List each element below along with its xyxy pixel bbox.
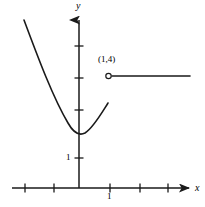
parabola-curve [24,20,108,134]
open-point-annotation-label: (1,4) [98,55,115,64]
x-axis-label: x [195,183,199,193]
open-circle-marker [106,73,111,78]
x-axis-tick-label-one: 1 [107,192,112,201]
y-axis-label: y [76,1,80,11]
graph-figure: y x 1 1 (1,4) [0,0,205,207]
y-axis-tick-label-one: 1 [66,153,71,162]
plot-canvas [0,0,205,207]
